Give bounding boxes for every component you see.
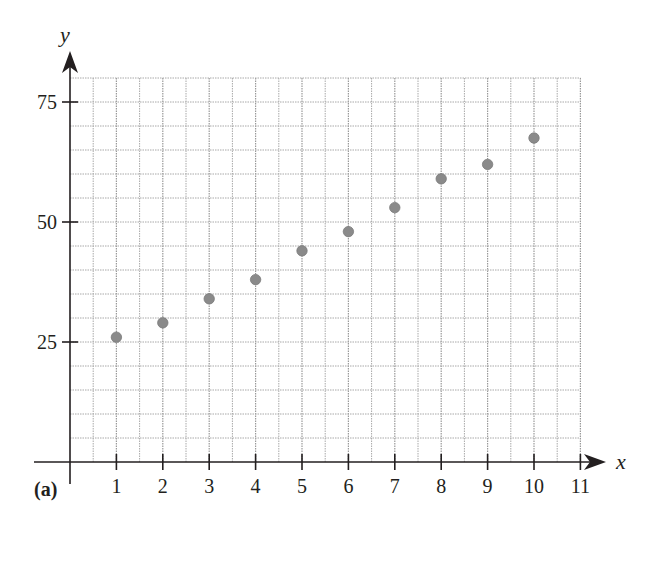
y-tick-label: 25 xyxy=(37,331,57,353)
grid xyxy=(70,78,580,462)
x-tick-label: 5 xyxy=(297,475,307,497)
x-tick-label: 6 xyxy=(343,475,353,497)
x-tick-label: 7 xyxy=(390,475,400,497)
x-axis-label: x xyxy=(615,449,626,474)
data-point xyxy=(529,133,539,143)
data-point xyxy=(111,332,121,342)
axes: x y xyxy=(34,22,626,484)
x-tick-label: 3 xyxy=(204,475,214,497)
data-point xyxy=(250,274,260,284)
data-point xyxy=(436,174,446,184)
x-tick-label: 9 xyxy=(483,475,493,497)
data-point xyxy=(390,202,400,212)
panel-label: (a) xyxy=(34,478,57,501)
x-tick-label: 10 xyxy=(524,475,544,497)
y-tick-label: 50 xyxy=(37,211,57,233)
data-point xyxy=(482,159,492,169)
x-tick-label: 4 xyxy=(251,475,261,497)
x-tick-label: 11 xyxy=(571,475,590,497)
y-axis-label: y xyxy=(58,22,70,47)
data-point xyxy=(158,318,168,328)
data-point xyxy=(343,226,353,236)
y-tick-label: 75 xyxy=(37,91,57,113)
data-point xyxy=(204,294,214,304)
x-tick-label: 8 xyxy=(436,475,446,497)
x-tick-label: 1 xyxy=(111,475,121,497)
data-point xyxy=(297,246,307,256)
scatter-chart: x y 1234567891011255075 xyxy=(0,0,660,561)
x-tick-label: 2 xyxy=(158,475,168,497)
